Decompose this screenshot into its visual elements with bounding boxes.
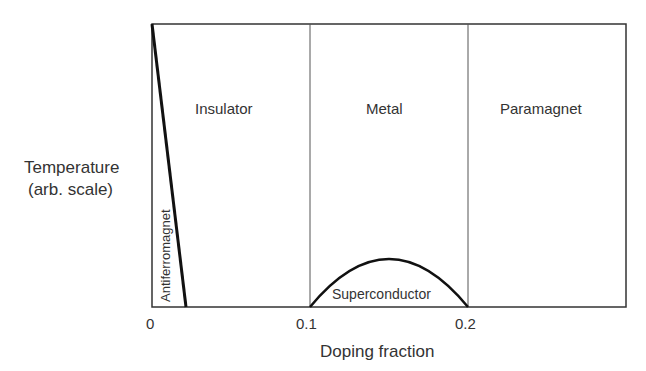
x-tick-0.1: 0.1	[296, 315, 317, 332]
y-axis-label-line2: (arb. scale)	[28, 180, 113, 200]
x-axis-label: Doping fraction	[320, 342, 434, 362]
plot-frame	[152, 24, 626, 307]
region-paramagnet: Paramagnet	[500, 100, 582, 117]
region-metal: Metal	[366, 100, 403, 117]
y-axis-label-line1: Temperature	[24, 158, 119, 178]
region-superconductor: Superconductor	[332, 286, 431, 302]
x-tick-0: 0	[146, 315, 154, 332]
region-antiferromagnet: Antiferromagnet	[158, 210, 173, 303]
x-tick-0.2: 0.2	[455, 315, 476, 332]
region-insulator: Insulator	[195, 100, 253, 117]
